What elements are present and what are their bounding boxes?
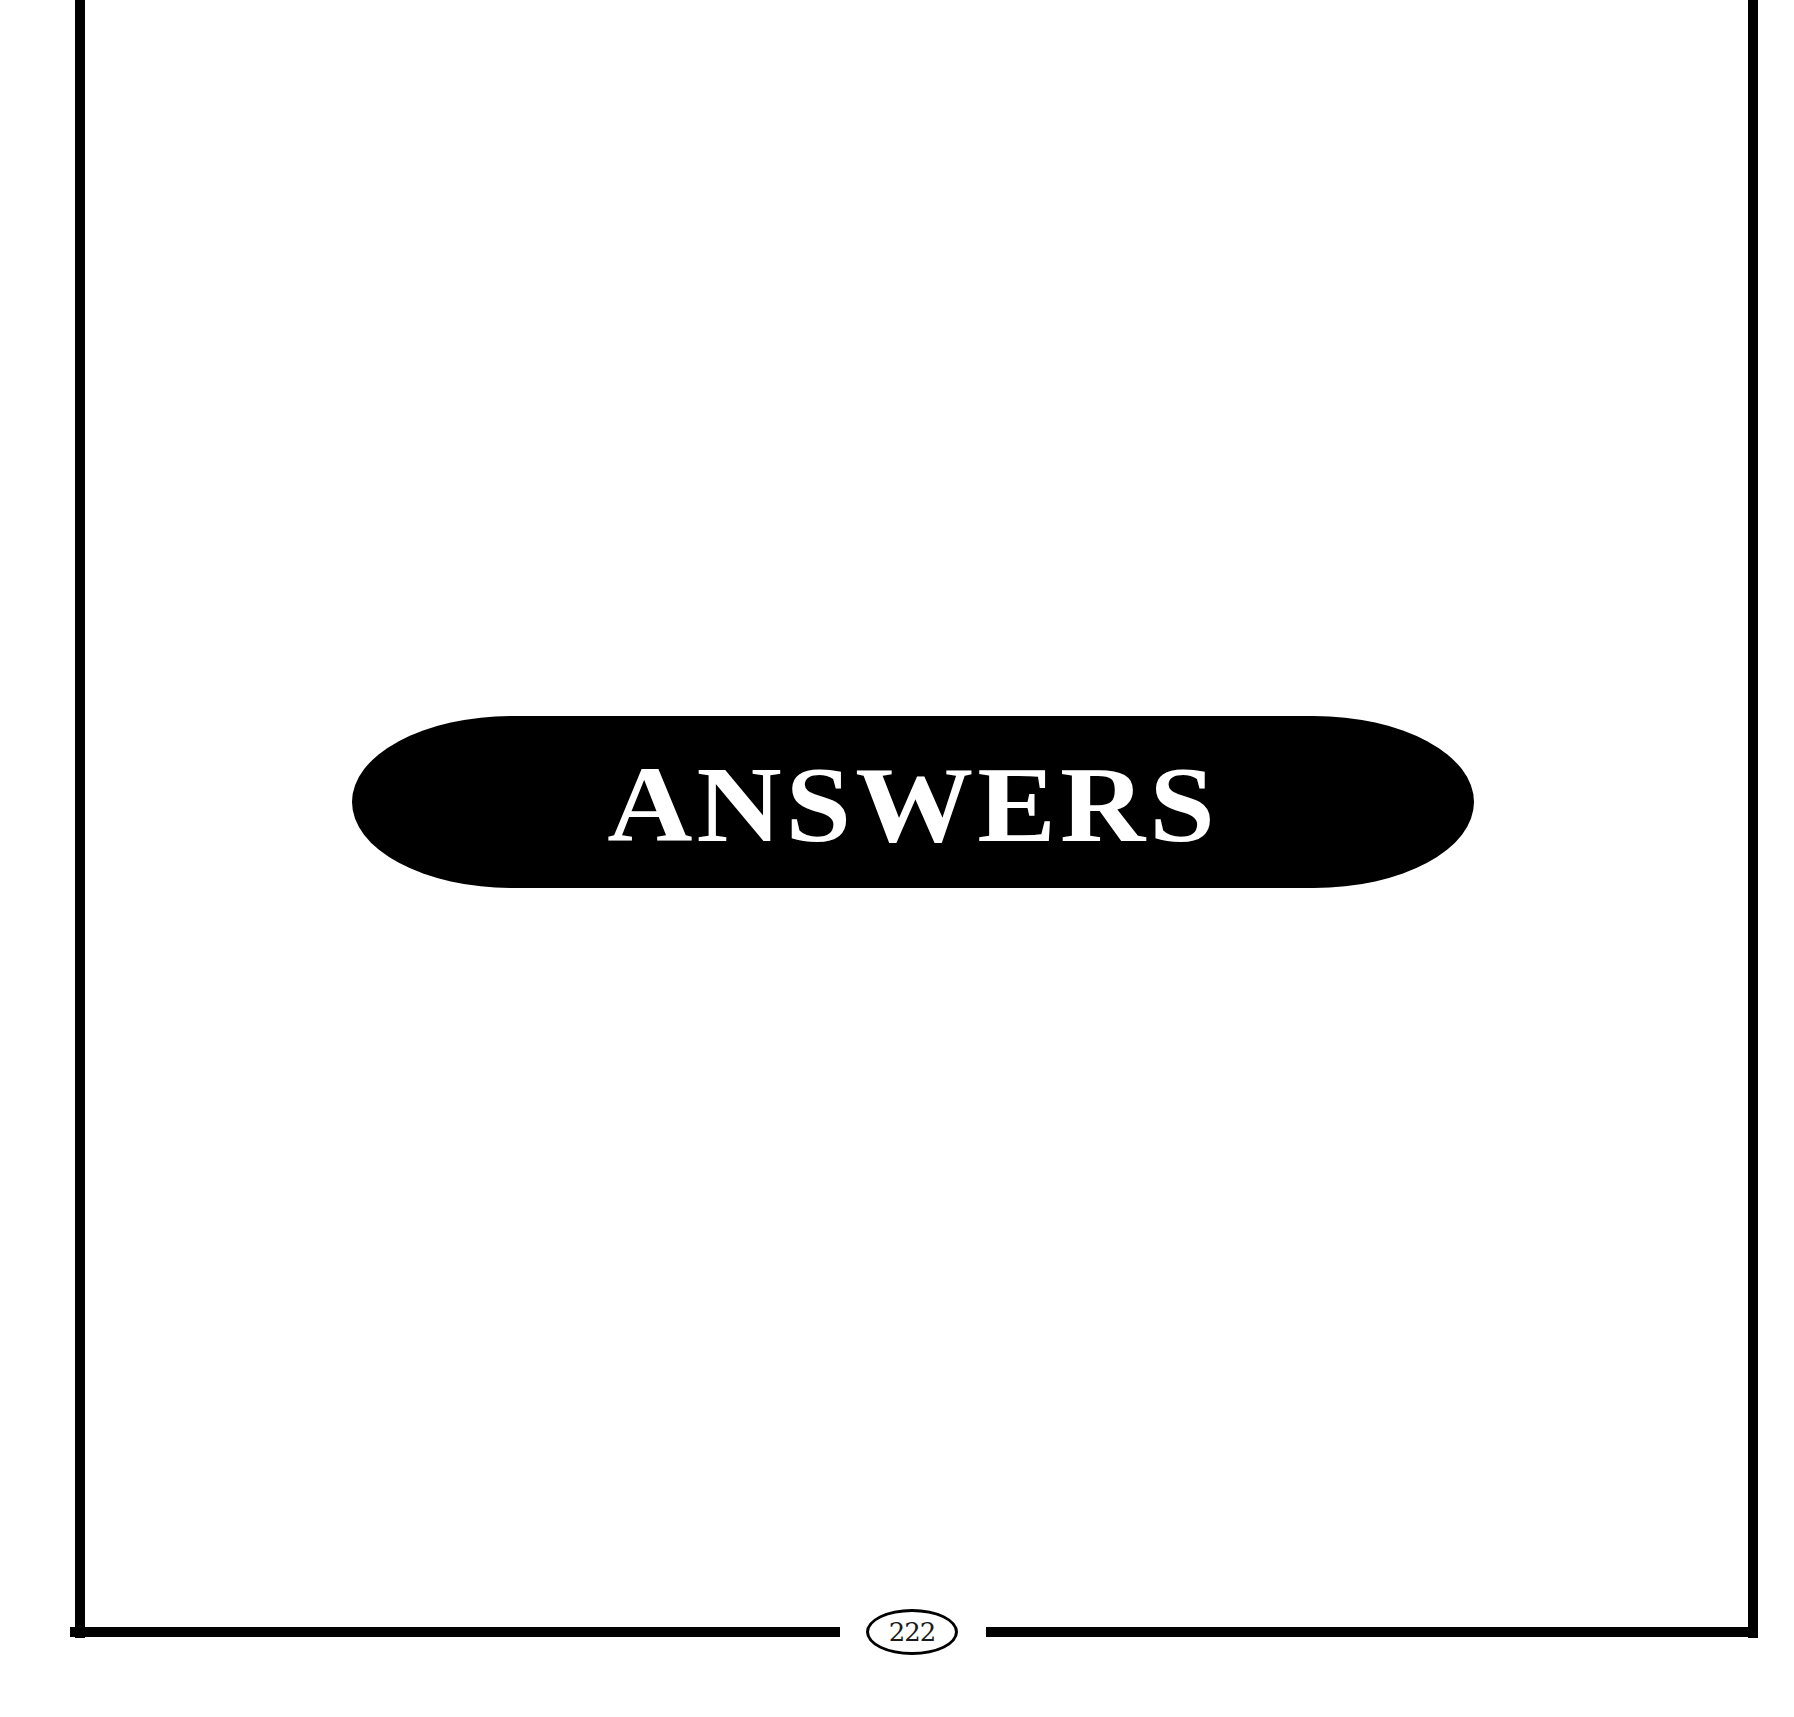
frame-right-border: [1748, 0, 1758, 1638]
frame-bottom-left-border: [70, 1627, 840, 1637]
frame-bottom-right-border: [986, 1627, 1758, 1637]
section-title: ANSWERS: [607, 751, 1219, 860]
frame-left-border: [75, 0, 85, 1638]
page-number-badge: 222: [866, 1609, 958, 1655]
section-title-banner: ANSWERS: [352, 716, 1474, 888]
page-number: 222: [889, 1617, 936, 1647]
